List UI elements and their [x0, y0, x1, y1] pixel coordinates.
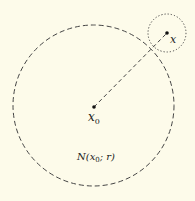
radius-connector: [94, 33, 167, 107]
point-x-label: x: [170, 33, 177, 46]
neighborhood-diagram: x x0 N(x0; r): [0, 0, 195, 201]
center-x0-label: x0: [88, 110, 100, 126]
outer-point: [165, 31, 169, 35]
neighborhood-label: N(x0; r): [76, 151, 115, 164]
center-point: [92, 105, 96, 109]
